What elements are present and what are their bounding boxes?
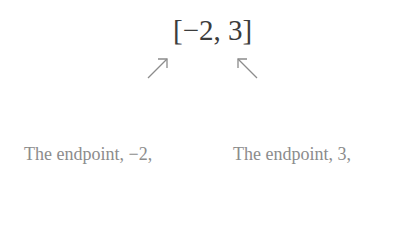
right-arrow-icon: [238, 59, 257, 78]
left-endpoint-note: The endpoint, −2, is included in the int…: [24, 94, 152, 192]
right-endpoint-note: The endpoint, 3, is included in the inte…: [233, 94, 356, 192]
note-line: The endpoint, −2,: [24, 142, 152, 166]
note-line: The endpoint, 3,: [233, 142, 356, 166]
left-arrow-icon: [148, 59, 167, 78]
